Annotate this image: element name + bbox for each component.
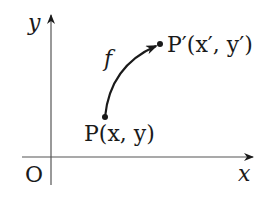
diagram-svg: y x O f P′(x′, y′) P(x, y) [0,0,273,199]
target-point-label: P′(x′, y′) [167,32,253,57]
x-axis-label: x [238,161,251,186]
point-p-prime [157,41,163,47]
point-p [102,114,108,120]
y-axis-label: y [27,10,41,35]
mapping-curve [105,46,156,117]
mapping-label: f [102,46,116,71]
diagram-canvas: y x O f P′(x′, y′) P(x, y) [0,0,273,199]
origin-label: O [25,162,43,187]
source-point-label: P(x, y) [84,121,155,146]
